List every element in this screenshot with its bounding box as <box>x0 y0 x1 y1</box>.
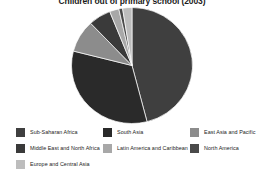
legend-item-label: South Asia <box>117 129 143 136</box>
legend-swatch-icon <box>16 144 25 153</box>
legend-item-label: Latin America and Caribbean <box>117 145 188 152</box>
legend-swatch-icon <box>190 144 199 153</box>
legend-swatch-icon <box>103 128 112 137</box>
pie-slices-group <box>71 7 192 123</box>
legend-item-label: Middle East and North Africa <box>30 145 100 152</box>
chart-title: Children out of primary school (2003) <box>0 0 264 6</box>
pie-chart-figure: Children out of primary school (2003) Su… <box>0 0 264 181</box>
legend-item-sub-saharan-africa[interactable]: Sub-Saharan Africa <box>16 128 78 137</box>
legend-item-east-asia-and-pacific[interactable]: East Asia and Pacific <box>190 128 255 137</box>
legend-swatch-icon <box>103 144 112 153</box>
legend-item-label: Europe and Central Asia <box>30 161 90 168</box>
pie-chart-plot-area <box>71 7 193 124</box>
legend-item-south-asia[interactable]: South Asia <box>103 128 143 137</box>
legend-item-label: East Asia and Pacific <box>204 129 255 136</box>
legend-item-europe-and-central-asia[interactable]: Europe and Central Asia <box>16 160 90 169</box>
legend-swatch-icon <box>16 160 25 169</box>
legend-swatch-icon <box>190 128 199 137</box>
legend-item-label: Sub-Saharan Africa <box>30 129 78 136</box>
legend-item-north-america[interactable]: North America <box>190 144 239 153</box>
legend-item-latin-america-and-caribbean[interactable]: Latin America and Caribbean <box>103 144 188 153</box>
legend-item-label: North America <box>204 145 239 152</box>
legend-swatch-icon <box>16 128 25 137</box>
chart-legend: Sub-Saharan Africa South Asia East Asia … <box>0 126 264 181</box>
pie-svg <box>71 7 193 124</box>
legend-item-middle-east-and-north-africa[interactable]: Middle East and North Africa <box>16 144 100 153</box>
